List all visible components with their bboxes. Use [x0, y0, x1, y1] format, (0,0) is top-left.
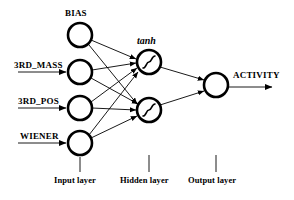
- node-bias[interactable]: [68, 23, 92, 47]
- label-3rd-pos: 3RD_POS: [18, 97, 59, 106]
- edge-wiener-h2: [91, 116, 137, 138]
- label-3rd-mass: 3RD_MASS: [14, 61, 63, 70]
- connections-input-hidden: [89, 40, 138, 138]
- label-wiener: WIENER: [20, 132, 59, 141]
- caption-hidden-layer: Hidden layer: [120, 176, 169, 185]
- node-3rd-pos[interactable]: [68, 96, 92, 120]
- edge-pos-h1: [91, 68, 137, 102]
- node-3rd-mass[interactable]: [68, 60, 92, 84]
- edge-pos-h2: [92, 108, 136, 110]
- input-layer-nodes: [68, 23, 92, 155]
- edge-h1-out: [160, 67, 204, 80]
- node-output-activity[interactable]: [204, 73, 228, 97]
- label-activity: ACTIVITY: [233, 71, 280, 80]
- hidden-layer-nodes: [137, 50, 161, 122]
- caption-output-layer: Output layer: [188, 176, 236, 185]
- node-wiener[interactable]: [68, 131, 92, 155]
- label-tanh-activation: tanh: [137, 36, 156, 46]
- connections-hidden-output: [160, 67, 204, 105]
- edge-mass-h2: [91, 78, 138, 104]
- layer-caption-ticks: [80, 155, 216, 172]
- neural-network-diagram: BIAS 3RD_MASS 3RD_POS WIENER tanh ACTIVI…: [0, 0, 294, 200]
- edge-bias-h2: [89, 45, 137, 104]
- caption-input-layer: Input layer: [54, 176, 96, 185]
- label-bias: BIAS: [65, 9, 87, 18]
- edge-mass-h1: [92, 63, 136, 70]
- edge-h2-out: [160, 91, 204, 105]
